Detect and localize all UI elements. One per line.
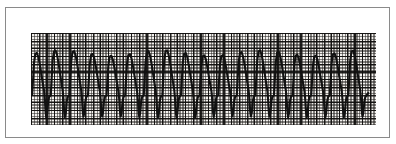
ecg-trace-layer bbox=[31, 33, 376, 125]
figure-frame bbox=[5, 7, 390, 138]
ecg-figure-page bbox=[0, 0, 396, 144]
ecg-rhythm-strip bbox=[31, 33, 376, 125]
figure-caption bbox=[0, 0, 1, 1]
ecg-waveform-trace bbox=[31, 50, 368, 117]
ecg-waveform-svg bbox=[31, 33, 376, 125]
